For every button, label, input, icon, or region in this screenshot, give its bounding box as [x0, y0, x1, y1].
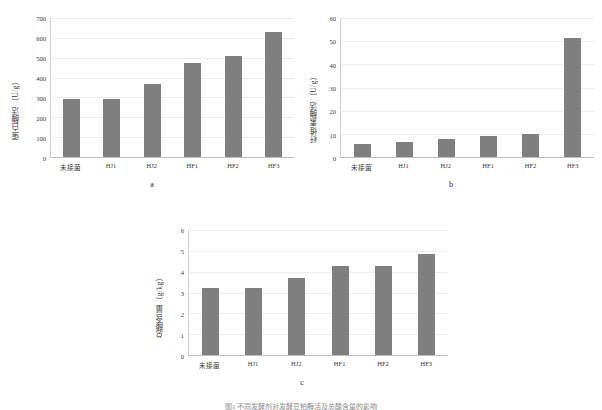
panel-c-y-axis-label-text: 总酸含量（g/kg）	[154, 273, 165, 338]
chart-panel-c: 总酸含量（g/kg） 0123456 未接菌HJ1HJ2HF1HF2HF3 c	[152, 208, 452, 404]
panel-c-y-tick-label: 3	[181, 290, 184, 297]
bar-未接菌[interactable]	[202, 288, 219, 355]
bar-HF3[interactable]	[564, 38, 581, 157]
bar-slot	[510, 18, 552, 157]
bar-HF2[interactable]	[225, 56, 242, 157]
bar-slot	[319, 230, 362, 355]
x-tick-label: HF3	[405, 360, 448, 370]
x-tick-label: HJ1	[382, 162, 424, 172]
x-tick-label: 未接菌	[50, 162, 91, 172]
panel-a-y-axis-label: 蛋白酶活（U/g）	[8, 10, 22, 206]
bar-slot	[51, 18, 92, 157]
x-tick-label: HF2	[509, 162, 551, 172]
panel-b-plot-area	[340, 18, 594, 158]
panel-c-y-tick-label: 4	[181, 269, 184, 276]
x-tick-label: 未接菌	[188, 360, 231, 370]
bar-slot	[92, 18, 133, 157]
panel-a-x-axis-labels: 未接菌HJ1HJ2HF1HF2HF3	[50, 162, 294, 172]
panel-b-y-tick-label: 30	[330, 85, 337, 92]
panel-b-y-tick-label: 10	[330, 131, 337, 138]
panel-c-y-tick-label: 2	[181, 311, 184, 318]
panel-c-y-tick-label: 5	[181, 248, 184, 255]
panel-b-letter: b	[306, 180, 596, 189]
panel-b-y-tick-label: 20	[330, 108, 337, 115]
bar-HF2[interactable]	[375, 266, 392, 355]
bar-HJ1[interactable]	[396, 142, 413, 157]
panel-a-bars	[51, 18, 294, 157]
x-tick-label: HF3	[552, 162, 594, 172]
panel-a-y-tick-label: 700	[36, 15, 46, 22]
x-tick-label: HF3	[253, 162, 294, 172]
bar-slot	[383, 18, 425, 157]
panel-c-bars	[189, 230, 448, 355]
panel-c-y-tick-label: 6	[181, 227, 184, 234]
x-tick-label: HF1	[467, 162, 509, 172]
panel-b-y-axis-ticks: 0102030405060	[316, 18, 338, 158]
bar-HJ1[interactable]	[103, 99, 120, 157]
panel-a-y-tick-label: 600	[36, 35, 46, 42]
bar-slot	[213, 18, 254, 157]
panel-c-y-tick-label: 0	[181, 353, 184, 360]
x-tick-label: HJ2	[275, 360, 318, 370]
panel-b-y-tick-label: 0	[333, 155, 336, 162]
bar-HF1[interactable]	[184, 63, 201, 157]
bar-HF2[interactable]	[522, 134, 539, 157]
x-tick-label: HJ1	[91, 162, 132, 172]
panel-b-y-tick-label: 40	[330, 61, 337, 68]
bar-slot	[173, 18, 214, 157]
chart-panel-a: 蛋白酶活（U/g） 0100200300400500600700 未接菌HJ1H…	[8, 10, 296, 206]
bar-slot	[275, 230, 318, 355]
bar-slot	[425, 18, 467, 157]
panel-c-y-tick-label: 1	[181, 332, 184, 339]
panel-c-x-axis-labels: 未接菌HJ1HJ2HF1HF2HF3	[188, 360, 448, 370]
x-tick-label: HF2	[213, 162, 254, 172]
bar-HJ2[interactable]	[144, 84, 161, 157]
bar-HF3[interactable]	[418, 254, 435, 355]
panel-b-y-tick-label: 50	[330, 38, 337, 45]
x-tick-label: 未接菌	[340, 162, 382, 172]
panel-b-y-tick-label: 60	[330, 15, 337, 22]
bar-HJ2[interactable]	[288, 278, 305, 356]
bar-HF3[interactable]	[265, 32, 282, 157]
bar-slot	[254, 18, 295, 157]
panel-a-y-tick-label: 0	[43, 155, 46, 162]
bar-slot	[189, 230, 232, 355]
panel-c-plot-area	[188, 230, 448, 356]
panel-a-letter: a	[8, 180, 296, 189]
x-tick-label: HF1	[318, 360, 361, 370]
bar-未接菌[interactable]	[63, 99, 80, 157]
x-tick-label: HF1	[172, 162, 213, 172]
panel-c-letter: c	[152, 378, 452, 387]
bar-slot	[362, 230, 405, 355]
panel-b-bars	[341, 18, 594, 157]
figure-caption: 图1 不同发酵剂对发酵豆粕酶活及总酸含量的影响	[0, 401, 602, 410]
panel-a-y-tick-label: 400	[36, 75, 46, 82]
bar-HJ1[interactable]	[245, 288, 262, 355]
panel-a-plot-area	[50, 18, 294, 158]
bar-slot	[232, 230, 275, 355]
bar-HF1[interactable]	[480, 136, 497, 157]
panel-a-y-axis-ticks: 0100200300400500600700	[26, 18, 48, 158]
bar-slot	[405, 230, 448, 355]
bar-slot	[341, 18, 383, 157]
panel-c-y-axis-ticks: 0123456	[164, 230, 186, 356]
x-tick-label: HJ2	[425, 162, 467, 172]
bar-未接菌[interactable]	[354, 144, 371, 157]
panel-b-x-axis-labels: 未接菌HJ1HJ2HF1HF2HF3	[340, 162, 594, 172]
bar-HF1[interactable]	[332, 266, 349, 355]
panel-a-y-tick-label: 500	[36, 55, 46, 62]
bar-slot	[132, 18, 173, 157]
chart-panel-b: 纤维素酶活（U/g） 0102030405060 未接菌HJ1HJ2HF1HF2…	[306, 10, 596, 206]
panel-a-y-tick-label: 300	[36, 95, 46, 102]
x-tick-label: HJ1	[231, 360, 274, 370]
bar-slot	[552, 18, 594, 157]
bar-slot	[468, 18, 510, 157]
panel-a-y-axis-label-text: 蛋白酶活（U/g）	[10, 77, 21, 140]
x-tick-label: HJ2	[131, 162, 172, 172]
panel-a-y-tick-label: 100	[36, 135, 46, 142]
bar-HJ2[interactable]	[438, 139, 455, 157]
panel-a-y-tick-label: 200	[36, 115, 46, 122]
x-tick-label: HF2	[361, 360, 404, 370]
